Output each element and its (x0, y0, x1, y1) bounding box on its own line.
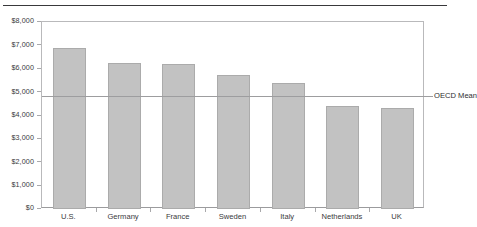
y-axis-tick-mark (37, 138, 41, 139)
top-divider-rule (3, 5, 447, 6)
bar-france (162, 64, 195, 209)
y-axis-tick-mark (37, 68, 41, 69)
y-axis-tick-mark (37, 161, 41, 162)
bar-netherlands (326, 106, 359, 209)
bar-italy (272, 83, 305, 209)
oecd-mean-line (42, 96, 433, 97)
y-axis-tick-label: $5,000 (0, 88, 34, 95)
y-axis-tick-mark (37, 208, 41, 209)
x-axis-tick-mark (96, 208, 97, 212)
y-axis-tick-label: $7,000 (0, 41, 34, 48)
x-axis-tick-mark (369, 208, 370, 212)
y-axis-tick-label: $8,000 (0, 17, 34, 24)
x-axis-tick-label: Italy (260, 213, 315, 221)
y-axis-tick-label: $2,000 (0, 158, 34, 165)
y-axis-tick-label: $3,000 (0, 134, 34, 141)
y-axis-tick-mark (37, 44, 41, 45)
y-axis-tick-mark (37, 115, 41, 116)
y-axis-tick-label: $0 (0, 204, 34, 211)
bar-germany (108, 63, 141, 209)
x-axis-tick-mark (150, 208, 151, 212)
y-axis-tick-label: $1,000 (0, 181, 34, 188)
plot-inner (42, 22, 423, 207)
x-axis-tick-label: Germany (96, 213, 151, 221)
y-axis-tick-mark (37, 185, 41, 186)
y-axis-tick-label: $6,000 (0, 64, 34, 71)
plot-area (41, 21, 424, 208)
y-axis-tick-label: $4,000 (0, 111, 34, 118)
x-axis-tick-mark (315, 208, 316, 212)
y-axis-tick-mark (37, 91, 41, 92)
x-axis-tick-mark (260, 208, 261, 212)
oecd-mean-label: OECD Mean (434, 92, 477, 100)
y-axis-tick-mark (37, 21, 41, 22)
bar-uk (381, 108, 414, 209)
x-axis-tick-label: U.S. (41, 213, 96, 221)
bar-u-s (53, 48, 86, 209)
x-axis-tick-label: UK (369, 213, 424, 221)
x-axis-tick-label: Netherlands (315, 213, 370, 221)
bar-sweden (217, 75, 250, 209)
x-axis-tick-label: Sweden (205, 213, 260, 221)
x-axis-tick-label: France (150, 213, 205, 221)
x-axis-tick-mark (205, 208, 206, 212)
